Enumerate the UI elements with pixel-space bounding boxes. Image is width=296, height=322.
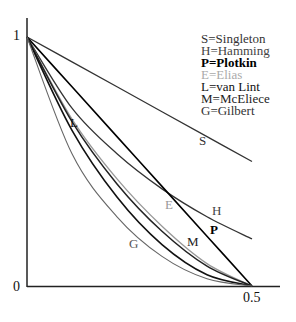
legend-item-gilbert: G=Gilbert [201,105,270,117]
legend: S=Singleton H=Hamming P=Plotkin E=Elias … [201,33,270,117]
curve-label-h: H [212,204,221,217]
curve-label-g: G [129,237,138,250]
curve-label-m: M [187,235,199,248]
y-tick-1: 1 [13,28,20,44]
origin-tick-0: 0 [13,279,20,295]
curve-label-s: S [199,134,206,147]
curve-label-l: L [70,116,78,129]
curve-label-p: P [210,223,218,236]
x-tick-0-5: 0.5 [243,290,261,306]
curve-label-e: E [165,198,173,211]
